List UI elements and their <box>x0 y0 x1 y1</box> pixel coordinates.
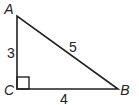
triangle-abc <box>17 16 118 89</box>
side-ac-label: 3 <box>7 45 15 61</box>
triangle-diagram: A C B 3 5 4 <box>0 0 139 105</box>
side-ab-label: 5 <box>69 39 77 55</box>
vertex-a-label: A <box>3 1 13 17</box>
vertex-c-label: C <box>4 82 15 98</box>
right-angle-marker <box>17 77 29 89</box>
side-cb-label: 4 <box>60 91 68 105</box>
vertex-b-label: B <box>120 82 129 98</box>
